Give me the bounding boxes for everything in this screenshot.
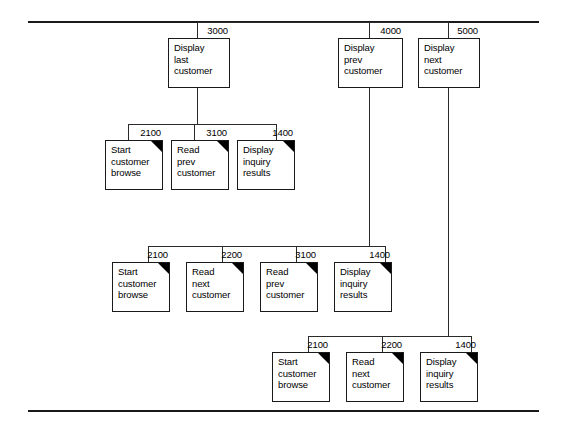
structure-chart-canvas: Display last customer3000Display prev cu…: [0, 0, 567, 435]
reusable-module-triangle-icon: [217, 141, 228, 152]
module-id-3000-row1: 3000: [170, 25, 228, 36]
module-id-1400-row3: 1400: [332, 249, 390, 260]
module-label: Display next customer: [424, 42, 477, 77]
connector-row2-bus: [128, 124, 276, 125]
connector-stem-4000: [369, 88, 370, 246]
module-id-3100-row2: 3100: [169, 127, 227, 138]
module-box-2200-row4[interactable]: Read next customer: [346, 352, 404, 402]
module-box-3000-row1[interactable]: Display last customer: [168, 38, 230, 88]
reusable-module-triangle-icon: [151, 141, 162, 152]
module-box-2100-row3[interactable]: Start customer browse: [112, 262, 170, 312]
module-box-1400-row3[interactable]: Display inquiry results: [334, 262, 392, 312]
module-box-3100-row3[interactable]: Read prev customer: [260, 262, 318, 312]
module-box-1400-row4[interactable]: Display inquiry results: [420, 352, 478, 402]
module-id-3100-row3: 3100: [258, 249, 316, 260]
reusable-module-triangle-icon: [318, 353, 329, 364]
connector-stem-5000: [448, 88, 449, 336]
module-box-4000-row1[interactable]: Display prev customer: [338, 38, 403, 88]
module-id-1400-row2: 1400: [235, 127, 293, 138]
reusable-module-triangle-icon: [232, 263, 243, 274]
module-id-2100-row2: 2100: [103, 127, 161, 138]
module-box-2100-row2[interactable]: Start customer browse: [105, 140, 163, 190]
module-box-3100-row2[interactable]: Read prev customer: [171, 140, 229, 190]
reusable-module-triangle-icon: [306, 263, 317, 274]
module-label: Display last customer: [174, 42, 227, 77]
reusable-module-triangle-icon: [158, 263, 169, 274]
reusable-module-triangle-icon: [466, 353, 477, 364]
module-id-2100-row3: 2100: [110, 249, 168, 260]
module-id-5000-row1: 5000: [420, 25, 478, 36]
connector-row3-bus: [148, 246, 385, 247]
connector-stem-3000: [197, 88, 198, 124]
module-box-1400-row2[interactable]: Display inquiry results: [237, 140, 295, 190]
module-id-4000-row1: 4000: [343, 25, 401, 36]
module-box-5000-row1[interactable]: Display next customer: [418, 38, 480, 88]
module-id-2200-row4: 2200: [344, 339, 402, 350]
module-label: Display prev customer: [344, 42, 400, 77]
module-box-2200-row3[interactable]: Read next customer: [186, 262, 244, 312]
connector-row4-bus: [308, 336, 471, 337]
bottom-rule: [28, 410, 539, 412]
module-id-2100-row4: 2100: [270, 339, 328, 350]
reusable-module-triangle-icon: [283, 141, 294, 152]
reusable-module-triangle-icon: [380, 263, 391, 274]
module-box-2100-row4[interactable]: Start customer browse: [272, 352, 330, 402]
module-id-2200-row3: 2200: [184, 249, 242, 260]
connector-root-bus: [197, 22, 449, 23]
reusable-module-triangle-icon: [392, 353, 403, 364]
module-id-1400-row4: 1400: [418, 339, 476, 350]
